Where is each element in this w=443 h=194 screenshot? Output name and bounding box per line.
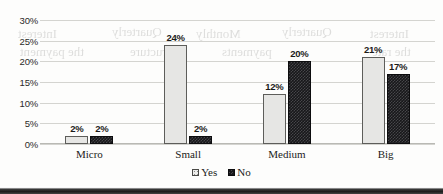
- bar-big-no[interactable]: [387, 74, 410, 144]
- gridline: [40, 20, 435, 21]
- y-axis-tick-label: 20%: [2, 56, 38, 67]
- bar-micro-no[interactable]: [90, 136, 113, 144]
- legend-swatch-yes-icon: [192, 169, 199, 176]
- bar-value-label: 20%: [290, 48, 308, 59]
- y-axis-tick-label: 15%: [2, 77, 38, 88]
- bar-value-label: 21%: [364, 44, 382, 55]
- y-axis-tick-label: 5%: [2, 118, 38, 129]
- legend-label-no: No: [237, 166, 250, 178]
- bar-big-yes[interactable]: [362, 57, 385, 144]
- bar-value-label: 2%: [194, 123, 207, 134]
- legend-item-no[interactable]: No: [228, 166, 250, 178]
- legend-item-yes[interactable]: Yes: [192, 166, 217, 178]
- bar-value-label: 17%: [389, 61, 407, 72]
- legend-label-yes: Yes: [201, 166, 217, 178]
- chart-legend: Yes No: [0, 166, 443, 178]
- bar-small-yes[interactable]: [164, 45, 187, 144]
- bar-value-label: 24%: [166, 32, 184, 43]
- x-axis-category-label: Small: [175, 148, 201, 160]
- y-axis-tick-label: 10%: [2, 97, 38, 108]
- y-axis-tick-label: 25%: [2, 35, 38, 46]
- bar-value-label: 2%: [95, 123, 108, 134]
- gridline: [40, 144, 435, 145]
- bar-chart-figure: InterestQuarterlyMonthlyQuarterlyInteres…: [0, 0, 443, 194]
- x-axis-category-label: Medium: [268, 148, 305, 160]
- bar-small-no[interactable]: [189, 136, 212, 144]
- bar-medium-no[interactable]: [288, 61, 311, 144]
- legend-swatch-no-icon: [228, 169, 235, 176]
- bar-value-label: 12%: [265, 81, 283, 92]
- plot-area: 2%2%24%2%12%20%21%17%: [40, 20, 435, 144]
- bar-medium-yes[interactable]: [263, 94, 286, 144]
- y-axis-tick-label: 30%: [2, 15, 38, 26]
- y-axis-tick-label: 0%: [2, 139, 38, 150]
- scan-bottom-band: [0, 186, 443, 194]
- y-axis-labels: 30%25%20%15%10%5%0%: [0, 20, 38, 144]
- x-axis-category-label: Big: [378, 148, 394, 160]
- x-axis-category-label: Micro: [76, 148, 103, 160]
- bar-micro-yes[interactable]: [65, 136, 88, 144]
- bar-value-label: 2%: [70, 123, 83, 134]
- gridline: [40, 41, 435, 42]
